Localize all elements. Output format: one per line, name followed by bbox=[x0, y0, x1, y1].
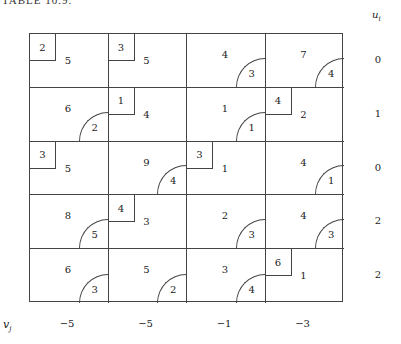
table-cell: 43 bbox=[109, 195, 188, 249]
quarter-circle-icon: 4 bbox=[315, 58, 344, 87]
u-value: 2 bbox=[372, 215, 384, 226]
cell-value: 8 bbox=[65, 210, 71, 221]
table-cell: 41 bbox=[266, 142, 345, 196]
quarter-circle-icon: 4 bbox=[157, 165, 186, 194]
table-cell: 31 bbox=[187, 142, 266, 196]
basic-cell-box: 3 bbox=[30, 142, 56, 169]
reduced-cost: 3 bbox=[328, 229, 334, 240]
quarter-circle-icon: 3 bbox=[236, 58, 265, 87]
table-cell: 23 bbox=[187, 195, 266, 249]
cell-value: 5 bbox=[65, 55, 71, 66]
reduced-cost: 4 bbox=[170, 175, 176, 186]
u-value: 2 bbox=[372, 269, 384, 280]
table-cell: 85 bbox=[30, 195, 109, 249]
cell-value: 5 bbox=[65, 163, 71, 174]
basic-cell-box: 6 bbox=[266, 249, 292, 276]
cell-value: 5 bbox=[143, 264, 149, 275]
table-cell: 74 bbox=[266, 34, 345, 88]
quarter-circle-icon: 3 bbox=[79, 274, 108, 303]
u-value: 1 bbox=[372, 108, 384, 119]
table-cell: 14 bbox=[109, 88, 188, 142]
cell-value: 1 bbox=[222, 103, 228, 114]
reduced-cost: 1 bbox=[328, 175, 334, 186]
v-row-header: vj bbox=[3, 318, 11, 333]
u-column-header: ui bbox=[372, 9, 381, 23]
cell-value: 2 bbox=[300, 109, 306, 120]
basic-cell-box: 4 bbox=[109, 195, 135, 222]
reduced-cost: 5 bbox=[92, 229, 98, 240]
cell-value: 2 bbox=[222, 210, 228, 221]
cell-value: 5 bbox=[143, 55, 149, 66]
basic-cell-box: 3 bbox=[187, 142, 213, 169]
cell-value: 4 bbox=[300, 210, 306, 221]
basic-cell-box: 3 bbox=[109, 34, 135, 61]
table-cell: 52 bbox=[109, 249, 188, 303]
table-cell: 62 bbox=[30, 88, 109, 142]
table-cell: 94 bbox=[109, 142, 188, 196]
reduced-cost: 2 bbox=[92, 122, 98, 133]
quarter-circle-icon: 5 bbox=[79, 219, 108, 248]
reduced-cost: 1 bbox=[249, 122, 255, 133]
quarter-circle-icon: 3 bbox=[236, 219, 265, 248]
quarter-circle-icon: 1 bbox=[236, 112, 265, 141]
table-cell: 11 bbox=[187, 88, 266, 142]
table-title: TABLE 10.9. bbox=[2, 0, 72, 6]
cell-value: 3 bbox=[222, 264, 228, 275]
quarter-circle-icon: 2 bbox=[79, 112, 108, 141]
basic-cell-box: 2 bbox=[30, 34, 56, 61]
reduced-cost: 2 bbox=[170, 284, 176, 295]
basic-cell-box: 4 bbox=[266, 88, 292, 115]
u-value: 0 bbox=[372, 54, 384, 65]
cell-value: 4 bbox=[143, 109, 149, 120]
cell-value: 1 bbox=[222, 163, 228, 174]
table-cell: 34 bbox=[187, 249, 266, 303]
table-cell: 42 bbox=[266, 88, 345, 142]
reduced-cost: 3 bbox=[249, 68, 255, 79]
table-cell: 43 bbox=[187, 34, 266, 88]
basic-cell-box: 1 bbox=[109, 88, 135, 115]
table-cell: 43 bbox=[266, 195, 345, 249]
cell-value: 4 bbox=[300, 157, 306, 168]
quarter-circle-icon: 1 bbox=[315, 165, 344, 194]
quarter-circle-icon: 2 bbox=[157, 274, 186, 303]
u-value: 0 bbox=[372, 162, 384, 173]
cell-value: 7 bbox=[300, 49, 306, 60]
quarter-circle-icon: 3 bbox=[315, 219, 344, 248]
quarter-circle-icon: 4 bbox=[236, 274, 265, 303]
table-cell: 63 bbox=[30, 249, 109, 303]
reduced-cost: 4 bbox=[328, 68, 334, 79]
cell-value: 9 bbox=[143, 157, 149, 168]
transportation-tableau: 2535437462141142359431418543234363523461 bbox=[29, 33, 343, 302]
v-subscript: j bbox=[9, 325, 11, 333]
v-value: −5 bbox=[138, 318, 153, 329]
v-value: −5 bbox=[60, 318, 75, 329]
reduced-cost: 4 bbox=[249, 284, 255, 295]
reduced-cost: 3 bbox=[249, 229, 255, 240]
v-value: −1 bbox=[217, 318, 232, 329]
reduced-cost: 3 bbox=[92, 284, 98, 295]
u-subscript: i bbox=[378, 15, 380, 23]
cell-value: 6 bbox=[65, 264, 71, 275]
table-cell: 25 bbox=[30, 34, 109, 88]
cell-value: 1 bbox=[300, 270, 306, 281]
table-cell: 61 bbox=[266, 249, 345, 303]
table-cell: 35 bbox=[30, 142, 109, 196]
v-value: −3 bbox=[295, 318, 310, 329]
cell-value: 6 bbox=[65, 103, 71, 114]
cell-value: 4 bbox=[222, 49, 228, 60]
table-cell: 35 bbox=[109, 34, 188, 88]
cell-value: 3 bbox=[143, 216, 149, 227]
